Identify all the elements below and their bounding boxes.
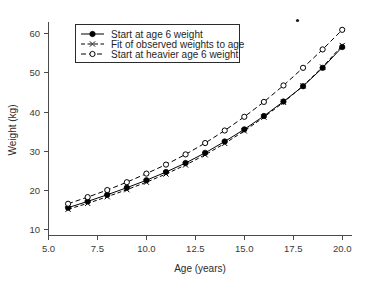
y-axis-title: Weight (kg) bbox=[7, 105, 18, 156]
data-point-marker bbox=[340, 27, 345, 32]
legend-marker-sample bbox=[90, 31, 95, 36]
y-tick-label: 20 bbox=[29, 185, 40, 196]
x-tick-label: 12.5 bbox=[186, 243, 205, 254]
legend-label: Start at heavier age 6 weight bbox=[111, 49, 239, 60]
data-point-marker bbox=[281, 83, 286, 88]
x-tick-label: 15.0 bbox=[235, 243, 254, 254]
data-point-marker bbox=[320, 47, 325, 52]
data-point-marker bbox=[144, 171, 149, 176]
x-tick-label: 5.0 bbox=[42, 243, 55, 254]
y-tick-label: 60 bbox=[29, 28, 40, 39]
data-point-marker bbox=[300, 65, 305, 70]
y-axis-ticks: 102030405060 bbox=[29, 28, 48, 235]
chart-legend: Start at age 6 weightFit of observed wei… bbox=[76, 25, 245, 63]
data-point-marker bbox=[242, 114, 247, 119]
data-point-marker bbox=[183, 152, 188, 157]
data-point-marker bbox=[163, 162, 168, 167]
data-point-marker bbox=[222, 128, 227, 133]
data-point-marker bbox=[85, 195, 90, 200]
stray-dot-artifact bbox=[296, 19, 299, 22]
chart-figure: 102030405060 5.07.510.012.515.017.520.0 … bbox=[0, 0, 369, 290]
data-point-marker bbox=[124, 180, 129, 185]
growth-curve-chart: 102030405060 5.07.510.012.515.017.520.0 … bbox=[0, 0, 369, 290]
x-axis-ticks: 5.07.510.012.515.017.520.0 bbox=[42, 236, 352, 255]
y-tick-label: 10 bbox=[29, 224, 40, 235]
x-axis-title: Age (years) bbox=[174, 263, 226, 274]
series-line bbox=[68, 47, 342, 208]
x-tick-label: 20.0 bbox=[333, 243, 352, 254]
x-tick-label: 10.0 bbox=[137, 243, 156, 254]
data-point-marker bbox=[203, 140, 208, 145]
x-tick-label: 7.5 bbox=[91, 243, 104, 254]
data-point-marker bbox=[261, 99, 266, 104]
data-point-marker bbox=[105, 187, 110, 192]
y-tick-label: 50 bbox=[29, 67, 40, 78]
data-point-marker bbox=[281, 99, 286, 104]
y-tick-label: 40 bbox=[29, 107, 40, 118]
data-point-marker bbox=[320, 65, 325, 70]
x-tick-label: 17.5 bbox=[284, 243, 303, 254]
data-point-marker bbox=[65, 201, 70, 206]
legend-marker-sample bbox=[90, 51, 95, 56]
y-tick-label: 30 bbox=[29, 146, 40, 157]
